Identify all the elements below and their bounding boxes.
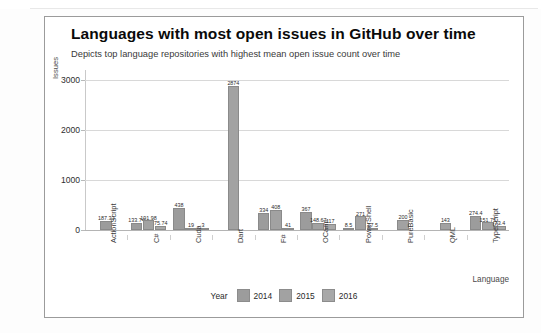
y-axis-tick-label: 1000	[61, 175, 80, 185]
x-axis-tick-labels: ActionScriptC#CudaDartF#OCamlPowerShellP…	[85, 235, 509, 295]
legend-label: 2015	[296, 291, 315, 301]
plot-area: 0100020003000187.33133.74191.9875.744381…	[85, 70, 509, 230]
bar-group: 187.33	[85, 70, 127, 230]
x-axis-tick-label: TypeScript	[491, 208, 500, 243]
x-axis-tick-label: Dart	[236, 229, 245, 243]
chart-screenshot: Languages with most open issues in GitHu…	[0, 0, 541, 333]
bar-value-label: 75.74	[154, 221, 168, 226]
x-axis-tick-label: QML	[448, 227, 457, 243]
x-axis-tick-label: OCaml	[321, 220, 330, 243]
bar-group: 367148.67117	[297, 70, 339, 230]
legend-label: 2016	[339, 291, 358, 301]
bar-value-label: 408	[271, 205, 280, 210]
y-axis-tick-label: 2000	[61, 125, 80, 135]
bar-group: 200	[382, 70, 424, 230]
chart-title: Languages with most open issues in GitHu…	[71, 25, 476, 43]
x-axis-tick-label: Cuda	[194, 225, 203, 243]
bar-value-label: 8.5	[345, 223, 353, 228]
bar[interactable]: 2874	[228, 86, 240, 230]
legend-swatch	[322, 289, 335, 302]
x-axis-tick-mark	[170, 235, 171, 240]
x-axis-baseline	[85, 230, 509, 231]
bar-group: 438193	[170, 70, 212, 230]
x-axis-tick-mark	[467, 235, 468, 240]
bar-value-label: 334	[259, 208, 268, 213]
legend-swatch	[237, 289, 250, 302]
bar[interactable]: 408	[270, 210, 282, 230]
bar[interactable]: 334	[258, 213, 270, 230]
bar[interactable]: 438	[173, 208, 185, 230]
legend-label: 2014	[254, 291, 273, 301]
x-axis-tick-mark	[127, 235, 128, 240]
bar[interactable]: 75.74	[155, 226, 167, 230]
legend-item[interactable]: 2016	[322, 289, 358, 302]
chart-subtitle: Depicts top language repositories with h…	[71, 49, 400, 59]
x-axis-tick-mark	[382, 235, 383, 240]
legend-title: Year	[211, 291, 228, 301]
x-axis-tick-mark	[212, 235, 213, 240]
chart-card: Languages with most open issues in GitHu…	[44, 16, 524, 318]
legend-swatch	[279, 289, 292, 302]
x-axis-tick-mark	[255, 235, 256, 240]
bar[interactable]: 191.98	[143, 220, 155, 230]
bar-value-label: 367	[302, 207, 311, 212]
bar-group: 33440841	[255, 70, 297, 230]
bar[interactable]: 8.5	[343, 228, 355, 230]
bar-value-label: 438	[174, 203, 183, 208]
bar-value-label: 2874	[227, 81, 239, 86]
bar[interactable]: 133.74	[131, 223, 143, 230]
y-axis-tick-label: 0	[75, 225, 80, 235]
bar-group: 274.4151.7573.4	[467, 70, 509, 230]
x-axis-tick-label: F#	[279, 234, 288, 243]
bar[interactable]: 41	[282, 228, 294, 230]
bar-group: 2874	[212, 70, 254, 230]
page-top-rule	[30, 8, 538, 9]
bar-value-label: 41	[285, 223, 291, 228]
x-axis-tick-label: PowerShell	[364, 206, 373, 243]
chart-legend: Year 201420152016	[45, 289, 523, 302]
legend-item[interactable]: 2014	[237, 289, 273, 302]
y-axis-tick-label: 3000	[61, 75, 80, 85]
bar-group: 143	[424, 70, 466, 230]
legend-item[interactable]: 2015	[279, 289, 315, 302]
bar-group: 133.74191.9875.74	[127, 70, 169, 230]
bar-value-label: 143	[441, 218, 450, 223]
x-axis-tick-label: ActionScript	[109, 204, 118, 243]
x-axis-tick-label: C#	[152, 234, 161, 243]
y-axis-title: Issues	[51, 57, 60, 79]
x-axis-tick-label: PureBasic	[406, 209, 415, 243]
y-axis-tick-mark	[81, 230, 85, 231]
bar-group: 8.527117.5	[339, 70, 381, 230]
x-axis-tick-mark	[424, 235, 425, 240]
x-axis-tick-mark	[297, 235, 298, 240]
x-axis-tick-mark	[339, 235, 340, 240]
